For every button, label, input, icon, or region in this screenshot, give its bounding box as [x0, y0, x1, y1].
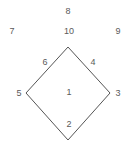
node-label-1: 1 — [66, 88, 71, 97]
node-label-8: 8 — [65, 7, 70, 16]
node-label-9: 9 — [115, 27, 120, 36]
node-label-10: 10 — [64, 27, 74, 36]
node-label-7: 7 — [9, 27, 14, 36]
diamond-shape — [0, 0, 130, 150]
node-label-2: 2 — [66, 120, 71, 129]
node-label-5: 5 — [16, 89, 21, 98]
node-label-3: 3 — [115, 89, 120, 98]
node-label-6: 6 — [42, 58, 47, 67]
node-label-4: 4 — [90, 58, 95, 67]
diagram-canvas: 1 2 3 4 5 6 7 8 9 10 — [0, 0, 130, 150]
